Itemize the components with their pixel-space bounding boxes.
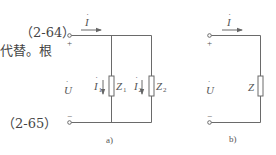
phasor-dot-i1: · (96, 73, 98, 82)
label-impedance-z2: Z (156, 80, 163, 92)
label-current-i1-sub: 1 (99, 86, 103, 94)
label-plus-a: + (67, 38, 72, 48)
circuit-a (68, 30, 154, 124)
label-impedance-z2-sub: 2 (163, 86, 167, 94)
impedance-z (258, 76, 263, 96)
phasor-dot-i2: · (136, 73, 138, 82)
label-impedance-z1: Z (116, 80, 123, 92)
circuit-figure: I · + U · − I · 1 Z 1 I · 2 Z 2 a) I · +… (0, 0, 276, 155)
label-impedance-z: Z (248, 81, 255, 93)
label-current-i2-sub: 2 (139, 86, 143, 94)
phasor-dot-voltage-a: · (66, 77, 68, 86)
terminal-top-b (208, 34, 212, 38)
caption-b: b) (229, 134, 237, 144)
impedance-z2 (149, 76, 154, 96)
label-minus-b: − (207, 111, 212, 121)
terminal-bottom-a (68, 121, 72, 125)
terminal-top-a (68, 34, 72, 38)
circuit-b (208, 30, 263, 124)
impedance-z1 (109, 76, 114, 96)
caption-a: a) (106, 135, 113, 145)
label-plus-b: + (207, 38, 212, 48)
phasor-dot-current-a: · (87, 10, 89, 19)
label-impedance-z1-sub: 1 (123, 86, 127, 94)
phasor-dot-current-b: · (229, 10, 231, 19)
label-minus-a: − (67, 111, 72, 121)
terminal-bottom-b (208, 121, 212, 125)
phasor-dot-voltage-b: · (208, 77, 210, 86)
